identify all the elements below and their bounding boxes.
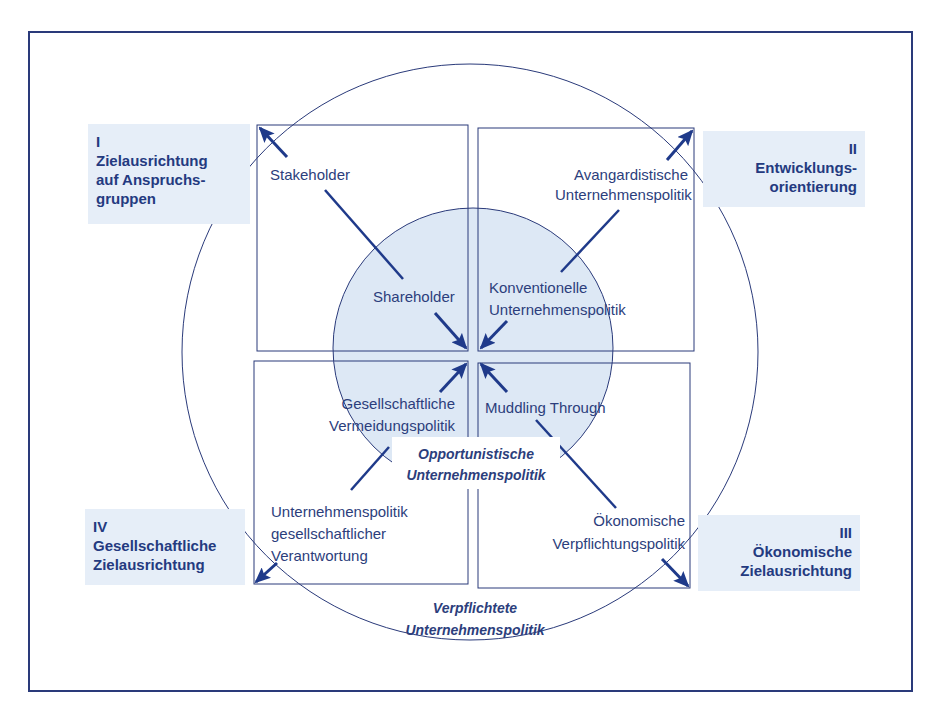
- quadrant-label-line: Zielausrichtung: [706, 561, 852, 580]
- quadrant-numeral: I: [96, 132, 242, 151]
- link-avangard-konventionell: [561, 210, 619, 272]
- policy-line: Shareholder: [373, 287, 455, 307]
- zone-label-line: Unternehmenspolitik: [392, 465, 560, 486]
- policy-line: Stakeholder: [270, 165, 350, 185]
- policy-vermeidung: Gesellschaftliche Vermeidungspolitik: [300, 393, 455, 437]
- quadrant-label-line: gruppen: [96, 189, 242, 208]
- policy-line: Vermeidungspolitik: [300, 415, 455, 437]
- quadrant-numeral: III: [706, 523, 852, 542]
- quadrant-label-III: III Ökonomische Zielausrichtung: [698, 515, 860, 591]
- zone-label-line: Verpflichtete: [380, 597, 570, 619]
- policy-line: gesellschaftlicher: [271, 523, 408, 545]
- policy-line: Unternehmenspolitik: [271, 501, 408, 523]
- policy-line: Muddling Through: [485, 398, 606, 418]
- link-vermeidung-verantwortung: [351, 447, 389, 490]
- policy-line: Verpflichtungspolitik: [525, 532, 685, 555]
- zone-label-opportunistic: Opportunistische Unternehmenspolitik: [392, 444, 560, 486]
- quadrant-label-II: II Entwicklungs- orientierung: [703, 131, 865, 207]
- zone-label-line: Opportunistische: [392, 444, 560, 465]
- policy-verantwortung: Unternehmenspolitik gesellschaftlicher V…: [271, 501, 408, 567]
- arrow-verpflichtung-out: [662, 559, 688, 586]
- policy-verpflichtung: Ökonomische Verpflichtungspolitik: [525, 509, 685, 555]
- quadrant-label-line: Ökonomische: [706, 542, 852, 561]
- quadrant-label-IV: IV Gesellschaftliche Zielausrichtung: [85, 509, 245, 585]
- policy-line: Konventionelle: [489, 277, 626, 299]
- quadrant-label-line: Entwicklungs-: [711, 158, 857, 177]
- policy-konventionell: Konventionelle Unternehmenspolitik: [489, 277, 626, 321]
- policy-line: Unternehmenspolitik: [555, 185, 688, 205]
- quadrant-label-line: Zielausrichtung: [96, 151, 242, 170]
- quadrant-label-I: I Zielausrichtung auf Anspruchs- gruppen: [88, 124, 250, 224]
- quadrant-label-line: auf Anspruchs-: [96, 170, 242, 189]
- policy-line: Verantwortung: [271, 545, 408, 567]
- policy-line: Unternehmenspolitik: [489, 299, 626, 321]
- policy-line: Gesellschaftliche: [300, 393, 455, 415]
- quadrant-numeral: IV: [93, 517, 237, 536]
- policy-shareholder: Shareholder: [373, 287, 455, 307]
- quadrant-label-line: Gesellschaftliche: [93, 536, 237, 555]
- arrow-stakeholder-out: [260, 128, 287, 157]
- policy-avangardistisch: Avangardistische Unternehmenspolitik: [555, 165, 688, 205]
- zone-label-obligated: Verpflichtete Unternehmenspolitik: [380, 597, 570, 641]
- policy-muddling: Muddling Through: [485, 398, 606, 418]
- policy-line: Ökonomische: [525, 509, 685, 532]
- zone-label-line: Unternehmenspolitik: [380, 619, 570, 641]
- policy-line: Avangardistische: [555, 165, 688, 185]
- quadrant-numeral: II: [711, 139, 857, 158]
- quadrant-label-line: orientierung: [711, 177, 857, 196]
- policy-stakeholder: Stakeholder: [270, 165, 350, 185]
- quadrant-label-line: Zielausrichtung: [93, 555, 237, 574]
